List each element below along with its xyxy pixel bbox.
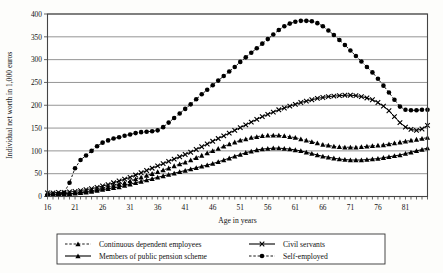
x-tick-label: 51 [237,203,245,212]
x-tick-label: 81 [402,203,410,212]
x-tick-label: 26 [99,203,107,212]
x-tick-label: 16 [44,203,52,212]
legend: Continuous dependent employeesCivil serv… [57,234,385,264]
y-tick-label: 350 [31,33,42,42]
y-tick-label: 300 [31,55,42,64]
x-tick-label: 41 [181,203,189,212]
legend-label: Members of public pension scheme [99,252,208,261]
x-tick-label: 46 [209,203,217,212]
y-axis-tick-labels: 050100150200250300350400 [31,10,48,202]
x-tick-label: 76 [374,203,382,212]
y-axis-label: Individual net worth in 1,000 euros [5,52,14,159]
x-tick-label: 71 [347,203,355,212]
legend-label: Continuous dependent employees [99,240,202,249]
y-tick-label: 50 [35,169,43,178]
net-worth-by-age-line-chart: 050100150200250300350400 162126313641465… [0,0,443,273]
y-tick-label: 400 [31,10,42,19]
x-axis-label: Age in years [218,216,256,225]
chart-figure: 050100150200250300350400 162126313641465… [0,0,443,273]
x-axis-tick-labels: 1621263136414651566166717681 [44,203,410,212]
y-tick-label: 100 [31,147,42,156]
x-tick-label: 31 [126,203,134,212]
x-tick-label: 21 [71,203,79,212]
x-tick-label: 66 [319,203,327,212]
y-tick-label: 250 [31,78,42,87]
legend-label: Self-employed [283,252,328,261]
x-tick-label: 36 [154,203,162,212]
y-tick-label: 200 [31,101,42,110]
legend-label: Civil servants [283,240,325,249]
y-tick-label: 0 [38,192,42,201]
y-tick-label: 150 [31,124,42,133]
x-tick-label: 61 [292,203,300,212]
x-tick-label: 56 [264,203,272,212]
